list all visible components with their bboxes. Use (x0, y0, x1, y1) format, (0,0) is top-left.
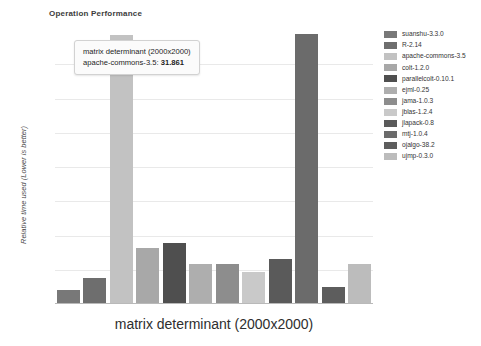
bar[interactable] (216, 264, 239, 302)
bar[interactable] (348, 264, 371, 302)
tooltip-value-row: apache-commons-3.5: 31.861 (83, 57, 191, 68)
legend-item[interactable]: jama-1.0.3 (384, 96, 480, 107)
legend-swatch (384, 120, 397, 127)
legend-item[interactable]: R-2.14 (384, 40, 480, 51)
legend-swatch (384, 42, 397, 49)
bar-slot (267, 30, 294, 303)
legend-swatch (384, 109, 397, 116)
legend-label: jama-1.0.3 (402, 98, 433, 105)
bar[interactable] (83, 278, 106, 303)
legend-swatch (384, 98, 397, 105)
y-axis-label: Relative time used (Lower is better) (19, 126, 28, 244)
legend-swatch (384, 131, 397, 138)
legend-swatch (384, 87, 397, 94)
legend-swatch (384, 142, 397, 149)
bar-slot (241, 30, 268, 303)
chart-root: Operation Performance Relative time used… (0, 0, 481, 346)
bar[interactable] (163, 243, 186, 302)
legend-label: parallelcolt-0.10.1 (402, 76, 454, 83)
legend-swatch (384, 31, 397, 38)
bar[interactable] (242, 272, 265, 303)
bar[interactable] (269, 259, 292, 302)
legend-swatch (384, 75, 397, 82)
legend-label: R-2.14 (402, 42, 422, 49)
legend-label: ojalgo-38.2 (402, 142, 435, 149)
legend-item[interactable]: parallelcolt-0.10.1 (384, 73, 480, 84)
legend-swatch (384, 53, 397, 60)
legend-item[interactable]: ojalgo-38.2 (384, 140, 480, 151)
y-axis-label-container: Relative time used (Lower is better) (16, 100, 30, 270)
legend-swatch (384, 153, 397, 160)
bar[interactable] (322, 287, 345, 303)
legend-label: apache-commons-3.5 (402, 53, 466, 60)
legend-item[interactable]: mtj-1.0.4 (384, 129, 480, 140)
tooltip-series-label: matrix determinant (2000x2000) (83, 46, 191, 57)
bar[interactable] (189, 264, 212, 302)
bar-slot (294, 30, 321, 303)
bar-slot (320, 30, 347, 303)
legend-label: ujmp-0.3.0 (402, 153, 433, 160)
bar[interactable] (295, 34, 318, 302)
legend-label: ejml-0.25 (402, 87, 429, 94)
legend-label: mtj-1.0.4 (402, 131, 428, 138)
tooltip-item-label: apache-commons-3.5: (83, 58, 159, 67)
bar-slot (214, 30, 241, 303)
bar[interactable] (136, 248, 159, 303)
bar-slot (347, 30, 374, 303)
legend-item[interactable]: ejml-0.25 (384, 84, 480, 95)
legend-label: jblas-1.2.4 (402, 109, 432, 116)
legend-label: jlapack-0.8 (402, 120, 434, 127)
legend-label: colt-1.2.0 (402, 65, 429, 72)
legend-item[interactable]: ujmp-0.3.0 (384, 151, 480, 162)
x-axis-line (55, 303, 373, 305)
chart-title: Operation Performance (49, 9, 142, 18)
bar[interactable] (110, 35, 133, 302)
legend-label: suanshu-3.3.0 (402, 31, 444, 38)
legend-item[interactable]: colt-1.2.0 (384, 62, 480, 73)
tooltip-value: 31.861 (161, 58, 184, 67)
x-axis-label: matrix determinant (2000x2000) (55, 316, 373, 332)
legend-swatch (384, 64, 397, 71)
legend-item[interactable]: suanshu-3.3.0 (384, 29, 480, 40)
legend: suanshu-3.3.0R-2.14apache-commons-3.5col… (384, 29, 480, 162)
tooltip: matrix determinant (2000x2000) apache-co… (74, 40, 200, 75)
bar[interactable] (57, 290, 80, 303)
legend-item[interactable]: jlapack-0.8 (384, 118, 480, 129)
legend-item[interactable]: jblas-1.2.4 (384, 107, 480, 118)
legend-item[interactable]: apache-commons-3.5 (384, 51, 480, 62)
